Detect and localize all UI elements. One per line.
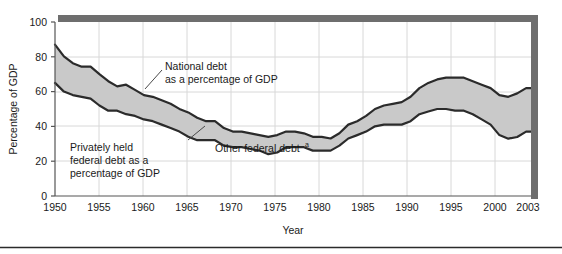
x-tick-label: 1990 xyxy=(395,201,419,213)
privately-held-label-line3: percentage of GDP xyxy=(70,167,160,179)
gdp-debt-area-chart: 0 20 40 60 80 100 Percentage of GDP 1950… xyxy=(0,0,562,254)
x-tick-label: 1980 xyxy=(307,201,331,213)
x-tick-label: 1995 xyxy=(439,201,463,213)
y-axis-tick-labels: 0 20 40 60 80 100 xyxy=(29,16,47,202)
y-tick-label: 20 xyxy=(35,155,47,167)
privately-held-label-line1: Privately held xyxy=(70,141,133,153)
x-axis-title: Year xyxy=(282,224,304,236)
chart-figure: 0 20 40 60 80 100 Percentage of GDP 1950… xyxy=(0,0,562,254)
y-tick-label: 40 xyxy=(35,120,47,132)
x-tick-label: 1985 xyxy=(351,201,375,213)
other-federal-debt-footnote-marker: a xyxy=(305,141,309,148)
y-tick-label: 80 xyxy=(35,51,47,63)
x-tick-label: 1965 xyxy=(175,201,199,213)
national-debt-label-line2: as a percentage of GDP xyxy=(165,73,278,85)
national-debt-label-line1: National debt xyxy=(165,60,227,72)
x-tick-label: 1955 xyxy=(87,201,111,213)
y-axis-title: Percentage of GDP xyxy=(7,63,19,154)
y-tick-label: 100 xyxy=(29,16,47,28)
privately-held-label-line2: federal debt as a xyxy=(70,154,148,166)
x-tick-label: 1960 xyxy=(131,201,155,213)
x-tick-label: 2003 xyxy=(516,201,540,213)
x-tick-label: 1950 xyxy=(43,201,67,213)
other-federal-debt-label: Other federal debt xyxy=(215,142,300,154)
x-tick-label: 1975 xyxy=(263,201,287,213)
annotation-other-federal-debt: Other federal debt a xyxy=(215,141,309,154)
y-tick-label: 0 xyxy=(41,190,47,202)
x-tick-label: 2000 xyxy=(483,201,507,213)
y-tick-label: 60 xyxy=(35,85,47,97)
x-axis-tick-labels: 1950 1955 1960 1965 1970 1975 1980 1985 … xyxy=(43,201,540,213)
x-tick-label: 1970 xyxy=(219,201,243,213)
